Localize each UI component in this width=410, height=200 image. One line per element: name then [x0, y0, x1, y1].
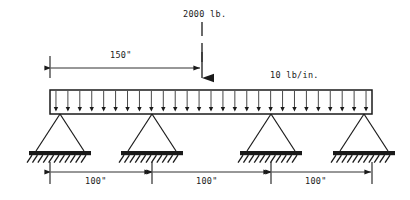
- ground-bar: [29, 151, 91, 155]
- ground-hatch: [276, 155, 281, 162]
- ground-hatch: [43, 155, 48, 162]
- ground-hatch: [243, 155, 248, 162]
- ground-hatch: [270, 155, 275, 162]
- pin-support: [238, 114, 302, 163]
- ground-hatch: [32, 155, 37, 162]
- ground-hatch: [76, 155, 81, 162]
- ground-hatch: [385, 155, 390, 162]
- ground-hatch: [27, 155, 32, 162]
- ground-hatch: [49, 155, 54, 162]
- ground-hatch: [374, 155, 379, 162]
- beam-diagram-svg: [0, 0, 410, 200]
- ground-hatch: [380, 155, 385, 162]
- ground-hatch: [151, 155, 156, 162]
- ground-hatch: [119, 155, 124, 162]
- pin-support: [27, 114, 91, 163]
- ground-hatch: [130, 155, 135, 162]
- ground-hatch: [281, 155, 286, 162]
- ground-hatch: [162, 155, 167, 162]
- ground-hatch: [54, 155, 59, 162]
- dimension-label-span-1: 100": [85, 176, 107, 186]
- ground-hatch: [141, 155, 146, 162]
- ground-hatch: [342, 155, 347, 162]
- support-leg: [364, 114, 388, 151]
- ground-hatch: [353, 155, 358, 162]
- ground-bar: [333, 151, 395, 155]
- dimension-label-span-2: 100": [196, 176, 218, 186]
- support-leg: [247, 114, 271, 151]
- ground-hatch: [287, 155, 292, 162]
- ground-hatch: [70, 155, 75, 162]
- ground-hatch: [260, 155, 265, 162]
- point-load-label: 2000 lb.: [183, 9, 226, 19]
- ground-hatch: [331, 155, 336, 162]
- dimension-label-150: 150": [110, 50, 132, 60]
- ground-hatch: [292, 155, 297, 162]
- ground-hatch: [363, 155, 368, 162]
- ground-hatch: [81, 155, 86, 162]
- ground-hatch: [238, 155, 243, 162]
- ground-hatch: [168, 155, 173, 162]
- distributed-load-label: 10 lb/in.: [270, 70, 319, 80]
- support-leg: [340, 114, 364, 151]
- support-group: [27, 114, 395, 163]
- ground-hatch: [358, 155, 363, 162]
- ground-hatch: [336, 155, 341, 162]
- support-leg: [60, 114, 84, 151]
- ground-hatch: [369, 155, 374, 162]
- support-leg: [36, 114, 60, 151]
- dimension-label-span-3: 100": [305, 176, 327, 186]
- ground-hatch: [249, 155, 254, 162]
- distributed-load-arrows: [56, 91, 366, 110]
- ground-hatch: [124, 155, 129, 162]
- beam-diagram: 2000 lb. 10 lb/in. 150" 100" 100" 100": [0, 0, 410, 200]
- support-leg: [152, 114, 176, 151]
- ground-hatch: [38, 155, 43, 162]
- ground-hatch: [157, 155, 162, 162]
- support-leg: [128, 114, 152, 151]
- support-leg: [271, 114, 295, 151]
- pin-support: [331, 114, 395, 163]
- ground-hatch: [135, 155, 140, 162]
- ground-hatch: [59, 155, 64, 162]
- ground-hatch: [173, 155, 178, 162]
- ground-hatch: [146, 155, 151, 162]
- ground-hatch: [254, 155, 259, 162]
- pin-support: [119, 114, 183, 163]
- ground-hatch: [347, 155, 352, 162]
- ground-hatch: [265, 155, 270, 162]
- ground-bar: [121, 151, 183, 155]
- ground-bar: [240, 151, 302, 155]
- ground-hatch: [65, 155, 70, 162]
